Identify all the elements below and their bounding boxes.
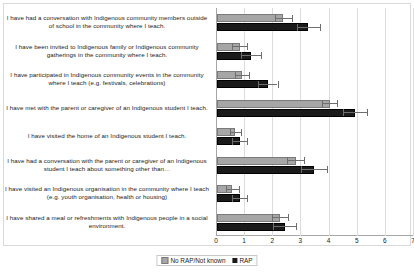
error-bar-cap xyxy=(241,52,242,59)
error-bar-cap xyxy=(232,195,233,202)
error-bar-cap xyxy=(304,157,305,164)
bar-norap xyxy=(217,100,330,108)
error-bar-cap xyxy=(235,72,236,79)
error-bar-cap xyxy=(241,129,242,136)
legend-item-rap: RAP xyxy=(232,257,252,264)
error-bar-cap xyxy=(226,186,227,193)
error-bar-cap xyxy=(247,138,248,145)
error-bar-cap xyxy=(247,43,248,50)
bar-group xyxy=(217,155,413,175)
category-label: I have visited the home of an Indigenous… xyxy=(4,132,210,140)
category-label: I have visited an Indigenous organisatio… xyxy=(4,185,210,201)
error-bar-cap xyxy=(343,109,344,116)
category-label: I have been invited to Indigenous family… xyxy=(4,43,210,59)
x-tick-label: 6 xyxy=(383,237,387,244)
x-axis-line xyxy=(216,235,413,236)
bar-norap xyxy=(217,14,283,22)
bar-rap xyxy=(217,23,308,31)
error-bar-cap xyxy=(239,186,240,193)
legend-label-rap: RAP xyxy=(239,257,252,264)
error-bar xyxy=(322,103,338,104)
error-bar xyxy=(230,132,241,133)
error-bar xyxy=(232,46,246,47)
error-bar-cap xyxy=(297,24,298,31)
category-label: I have shared a meal or refreshments wit… xyxy=(4,214,210,230)
error-bar-cap xyxy=(247,195,248,202)
category-label: I have had a conversation with the paren… xyxy=(4,157,210,173)
legend-swatch-rap-icon xyxy=(232,258,237,263)
error-bar-cap xyxy=(232,138,233,145)
error-bar xyxy=(258,84,278,85)
error-bar-cap xyxy=(327,166,328,173)
bar-group xyxy=(217,126,413,146)
error-bar-cap xyxy=(278,81,279,88)
error-bar xyxy=(241,55,261,56)
bar-rap xyxy=(217,109,355,117)
error-bar-cap xyxy=(230,129,231,136)
legend-label-no-rap: No RAP/Not known xyxy=(170,257,225,264)
category-label: I have had a conversation with Indigenou… xyxy=(4,14,210,30)
error-bar-cap xyxy=(301,166,302,173)
error-bar-cap xyxy=(272,214,273,221)
x-axis-ticks: 01234567 xyxy=(216,237,413,249)
x-tick-label: 0 xyxy=(214,237,218,244)
error-bar xyxy=(343,112,367,113)
legend-swatch-no-rap-icon xyxy=(161,257,168,264)
error-bar xyxy=(235,75,249,76)
category-label: I have met with the parent or caregiver … xyxy=(4,104,210,112)
error-bar-cap xyxy=(288,214,289,221)
error-bar-cap xyxy=(322,100,323,107)
error-bar-cap xyxy=(273,223,274,230)
x-tick-label: 4 xyxy=(327,237,331,244)
category-label-column: I have had a conversation with Indigenou… xyxy=(4,8,214,236)
error-bar xyxy=(297,27,320,28)
x-tick-label: 5 xyxy=(355,237,359,244)
error-bar-cap xyxy=(258,81,259,88)
bar-norap xyxy=(217,157,296,165)
error-bar xyxy=(273,226,296,227)
error-bar-cap xyxy=(367,109,368,116)
error-bar-cap xyxy=(261,52,262,59)
category-label: I have participated in Indigenous commun… xyxy=(4,71,210,87)
x-tick-label: 2 xyxy=(270,237,274,244)
error-bar xyxy=(232,198,248,199)
error-bar-cap xyxy=(275,15,276,22)
chart-legend: No RAP/Not known RAP xyxy=(156,255,257,266)
x-tick-label: 1 xyxy=(242,237,246,244)
error-bar xyxy=(232,141,246,142)
error-bar xyxy=(272,217,288,218)
bar-rap xyxy=(217,166,314,174)
bar-group xyxy=(217,98,413,118)
error-bar-cap xyxy=(232,43,233,50)
bar-chart: I have had a conversation with Indigenou… xyxy=(0,0,414,277)
bar-group xyxy=(217,69,413,89)
error-bar-cap xyxy=(287,157,288,164)
error-bar xyxy=(275,18,292,19)
x-tick-label: 3 xyxy=(299,237,303,244)
error-bar xyxy=(226,189,238,190)
error-bar-cap xyxy=(296,223,297,230)
error-bar xyxy=(301,169,326,170)
bar-norap xyxy=(217,214,280,222)
legend-item-no-rap: No RAP/Not known xyxy=(161,257,225,264)
error-bar-cap xyxy=(292,15,293,22)
error-bar-cap xyxy=(337,100,338,107)
error-bar xyxy=(287,160,304,161)
plot-area xyxy=(216,8,413,236)
bar-group xyxy=(217,12,413,32)
bar-group xyxy=(217,212,413,232)
error-bar-cap xyxy=(320,24,321,31)
error-bar-cap xyxy=(249,72,250,79)
bar-group xyxy=(217,183,413,203)
bar-group xyxy=(217,41,413,61)
